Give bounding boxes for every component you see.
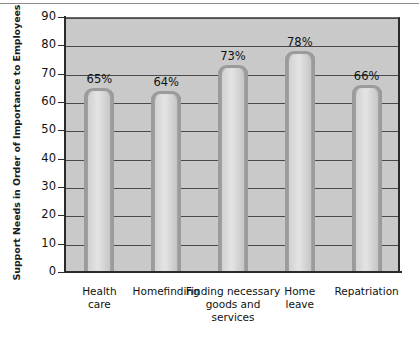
x-axis-line bbox=[64, 271, 402, 273]
x-axis-category-label-line: leave bbox=[252, 298, 348, 311]
x-axis-category-label-line: care bbox=[51, 298, 147, 311]
bar-value-label: 64% bbox=[139, 75, 193, 89]
y-axis-tick-label: 20 bbox=[22, 207, 56, 221]
bar bbox=[84, 88, 114, 272]
gridline bbox=[66, 46, 398, 47]
bar bbox=[151, 91, 181, 272]
y-axis-tick-label: 70 bbox=[22, 66, 56, 80]
bar-value-label: 65% bbox=[72, 72, 126, 86]
gridline bbox=[66, 18, 398, 19]
y-axis-title: Support Needs in Order of Importance to … bbox=[11, 11, 22, 281]
y-axis-tick-label: 40 bbox=[22, 151, 56, 165]
bar-value-label: 78% bbox=[273, 35, 327, 49]
x-axis-category-label: Repatriation bbox=[319, 285, 415, 298]
bar bbox=[218, 65, 248, 272]
y-axis-tick-label: 50 bbox=[22, 122, 56, 136]
x-axis-category-label-line: services bbox=[185, 311, 281, 324]
y-axis-tick-label: 80 bbox=[22, 37, 56, 51]
y-axis-tick-label: 10 bbox=[22, 236, 56, 250]
bar bbox=[285, 51, 315, 272]
top-divider-rule bbox=[0, 3, 419, 4]
bar-value-label: 73% bbox=[206, 49, 260, 63]
y-axis-tick-label: 60 bbox=[22, 94, 56, 108]
chart-page: Support Needs in Order of Importance to … bbox=[0, 0, 419, 338]
bar bbox=[352, 85, 382, 272]
bar-value-label: 66% bbox=[340, 69, 394, 83]
x-axis-category-label-line: Repatriation bbox=[319, 285, 415, 298]
y-axis-tick-label: 0 bbox=[22, 264, 56, 278]
y-axis-tick-label: 30 bbox=[22, 179, 56, 193]
y-axis-tick-label: 90 bbox=[22, 9, 56, 23]
